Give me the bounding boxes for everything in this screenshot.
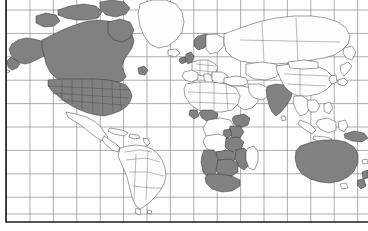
region-mongolia: [288, 60, 318, 69]
region-central-asia: [246, 62, 280, 80]
region-falklands: [147, 210, 152, 214]
world-map-container: [0, 0, 368, 231]
world-map-svg: [0, 0, 368, 231]
region-sri-lanka: [281, 116, 286, 121]
region-new-caledonia: [362, 159, 368, 164]
